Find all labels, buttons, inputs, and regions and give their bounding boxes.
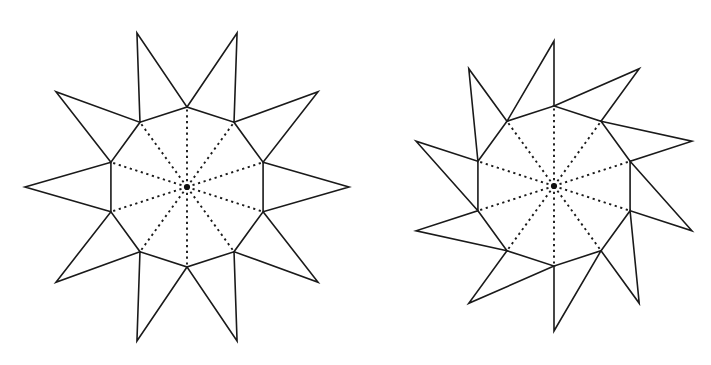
figure-canvas <box>0 0 711 365</box>
canvas-background <box>0 0 711 365</box>
left-center-dot <box>184 184 190 190</box>
right-center-dot <box>551 183 557 189</box>
